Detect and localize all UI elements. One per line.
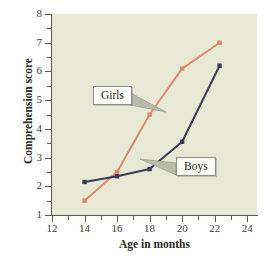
data-point-marker (180, 140, 184, 144)
y-axis-title: Comprehension score (22, 31, 34, 191)
x-tick-minor (198, 216, 199, 220)
data-point-marker (147, 167, 151, 171)
data-point-marker (217, 41, 221, 45)
data-point-marker (180, 66, 184, 70)
x-tick-label: 20 (170, 223, 194, 234)
x-tick-label: 18 (138, 223, 162, 234)
x-tick-minor (166, 216, 167, 220)
y-tick-label: 8 (20, 8, 42, 19)
callout-pointer-layer (125, 90, 176, 175)
x-axis-line (51, 215, 258, 216)
x-tick-label: 12 (40, 223, 64, 234)
plot-svg (52, 14, 257, 215)
y-tick-minor (47, 143, 52, 144)
chart-figure: 1234567812141618202224 Comprehension sco… (0, 0, 270, 262)
x-tick-label: 16 (105, 223, 129, 234)
series-layer (82, 41, 221, 203)
y-tick-major (45, 129, 52, 130)
x-tick-minor (231, 216, 232, 220)
y-tick-label: 1 (20, 209, 42, 220)
callout-girls: Girls (93, 86, 132, 105)
x-tick-minor (68, 216, 69, 220)
data-point-marker (147, 112, 151, 116)
callout-pointer-boys (140, 159, 176, 175)
x-tick-label: 24 (235, 223, 259, 234)
x-tick-label: 14 (73, 223, 97, 234)
y-tick-minor (47, 57, 52, 58)
x-tick-minor (133, 216, 134, 220)
y-tick-minor (47, 201, 52, 202)
x-tick-label: 22 (203, 223, 227, 234)
y-tick-major (45, 186, 52, 187)
x-tick-minor (101, 216, 102, 220)
y-tick-major (45, 215, 52, 216)
y-tick-major (45, 100, 52, 101)
series-line-girls (85, 43, 220, 201)
y-tick-minor (47, 86, 52, 87)
callout-boys: Boys (176, 157, 216, 176)
plot-area (52, 14, 257, 215)
x-axis-title: Age in months (52, 238, 257, 250)
data-point-marker (115, 170, 119, 174)
y-tick-major (45, 43, 52, 44)
y-tick-major (45, 71, 52, 72)
data-point-marker (82, 198, 86, 202)
y-tick-minor (47, 172, 52, 173)
data-point-marker (115, 174, 119, 178)
y-tick-minor (47, 115, 52, 116)
y-tick-minor (47, 28, 52, 29)
y-tick-major (45, 14, 52, 15)
data-point-marker (82, 180, 86, 184)
data-point-marker (217, 63, 221, 67)
y-tick-major (45, 158, 52, 159)
